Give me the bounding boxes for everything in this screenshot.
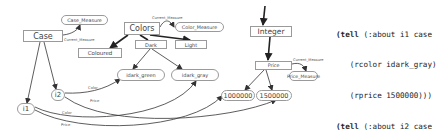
edge-case-i1 (27, 42, 40, 103)
node-case[interactable]: Case (23, 30, 63, 42)
edge-colors-current-measure (160, 21, 174, 27)
node-colors[interactable]: Colors (124, 22, 160, 35)
node-idark-green[interactable]: idark_green (117, 69, 165, 81)
edge-label: Color (88, 85, 98, 90)
node-i2[interactable]: i2 (51, 89, 65, 101)
edge-label: Current_Measure (64, 38, 95, 42)
edge-case-current-measure (63, 25, 80, 35)
edge-label: Current_Measure (293, 58, 324, 62)
edge-dark-idark-gray (152, 49, 182, 69)
edge-dark-idark-green (133, 49, 150, 69)
edge-price-1500000 (266, 70, 272, 90)
node-price-measure[interactable]: Price_Measure (289, 71, 318, 81)
edge-label: Color (62, 110, 72, 115)
edge-colors-coloured (110, 35, 128, 48)
node-color-measure[interactable]: Color_Measure (175, 22, 224, 32)
edge-price-1000000 (245, 70, 264, 90)
node-dark[interactable]: Dark (135, 40, 167, 49)
code-line: (tell (:about i2 case (336, 122, 447, 132)
edge-label: Price (90, 98, 100, 103)
edge-into-integer (263, 6, 265, 25)
node-price[interactable]: Price (255, 61, 292, 70)
node-light[interactable]: Light (175, 40, 207, 49)
code-line: (rprice 1500000))) (336, 91, 447, 101)
node-coloured[interactable]: Coloured (78, 48, 122, 58)
code-line: (rcolor idark_gray) (336, 60, 447, 70)
node-i1[interactable]: i1 (17, 103, 35, 115)
edge-integer-price (268, 37, 270, 60)
node-case-measure[interactable]: Case_Measure (61, 15, 108, 25)
code-line: (tell (:about i1 case (336, 30, 447, 40)
node-1000000[interactable]: 1000000 (221, 90, 255, 101)
edge-label: Current_Measure (152, 16, 183, 20)
edge-label: Price (61, 122, 71, 127)
node-idark-gray[interactable]: idark_gray (171, 69, 219, 81)
tell-code-block: (tell (:about i1 case (rcolor idark_gray… (336, 9, 447, 134)
edge-price-current-measure (292, 63, 306, 71)
semantic-network-diagram: Current_Measure Current_Measure Current_… (0, 0, 330, 134)
node-1500000[interactable]: 1500000 (256, 90, 292, 101)
edge-case-i2 (44, 42, 56, 89)
node-integer[interactable]: Integer (250, 26, 292, 37)
